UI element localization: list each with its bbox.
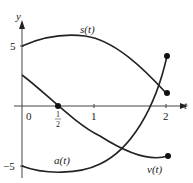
s-curve-label: s(t) — [80, 23, 95, 36]
y-axis-label: y — [15, 10, 21, 22]
v-root-point — [55, 103, 61, 109]
tick-label-0: 0 — [26, 110, 32, 122]
motion-chart: y t 0 1 2 1 2 5 −5 s(t) v(t) a(t) — [0, 0, 193, 183]
tick-label-5: 5 — [10, 40, 16, 52]
a-curve-label: a(t) — [54, 154, 70, 167]
s-endpoint — [164, 90, 170, 96]
tick-label-m5: −5 — [3, 160, 15, 172]
axes — [14, 20, 188, 178]
t-axis-label: t — [184, 99, 188, 111]
tick-label-2: 2 — [163, 110, 169, 122]
s-curve — [22, 35, 166, 93]
tick-label-1: 1 — [91, 110, 97, 122]
v-endpoint — [165, 153, 171, 159]
a-endpoint — [164, 53, 170, 59]
v-curve-label: v(t) — [147, 163, 163, 176]
tick-label-half-den: 2 — [56, 120, 60, 129]
tick-label-half-num: 1 — [56, 110, 60, 119]
